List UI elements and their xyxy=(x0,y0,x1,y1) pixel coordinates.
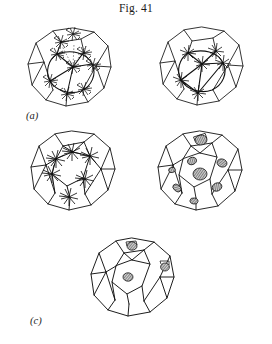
figure-panel-e: (e) xyxy=(82,234,190,326)
polyhedron-diagram-a xyxy=(18,22,128,118)
figure-title: Fig. 41 xyxy=(0,2,272,14)
face-edges-c xyxy=(46,142,101,198)
figure-panel-b: (b) xyxy=(150,22,260,118)
polyhedron-diagram-c xyxy=(22,126,132,222)
figure-plate: Fig. 41 xyxy=(0,0,272,344)
polyhedron-diagram-d xyxy=(148,126,258,222)
panel-label-c: (c) xyxy=(30,315,42,326)
outer-hull-a xyxy=(28,28,111,106)
vertex-tufts-a xyxy=(43,27,101,101)
figure-panel-c: (c) xyxy=(22,126,132,222)
figure-panel-a: (a) xyxy=(18,22,128,118)
polyhedron-diagram-b xyxy=(150,22,260,118)
polyhedron-diagram-e xyxy=(82,234,190,326)
panel-label-a: (a) xyxy=(26,110,38,121)
vertex-tufts-c xyxy=(42,143,99,206)
apertures-d xyxy=(168,133,228,204)
figure-panel-d: (d) xyxy=(148,126,258,222)
